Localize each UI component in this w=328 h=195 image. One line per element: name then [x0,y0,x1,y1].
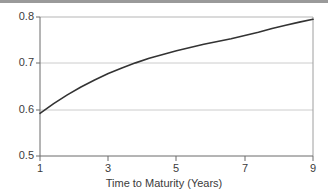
chart-figure: 0.8 0.7 0.6 0.5 1 3 5 7 9 Time to Maturi… [0,0,328,195]
x-tick-label-3: 7 [235,163,255,174]
y-tick-label-2: 0.6 [8,104,34,115]
x-axis-title: Time to Maturity (Years) [0,177,328,189]
x-tick-label-0: 1 [30,163,50,174]
y-tick-label-1: 0.7 [8,57,34,68]
data-series-curve [40,19,313,113]
y-tick-label-3: 0.5 [8,150,34,161]
x-tick-label-4: 9 [303,163,323,174]
y-tick-label-0: 0.8 [8,11,34,22]
y-tick-marks [36,17,40,156]
x-tick-label-2: 5 [166,163,186,174]
x-tick-label-1: 3 [98,163,118,174]
x-tick-marks [40,156,313,161]
gridlines [40,17,313,110]
